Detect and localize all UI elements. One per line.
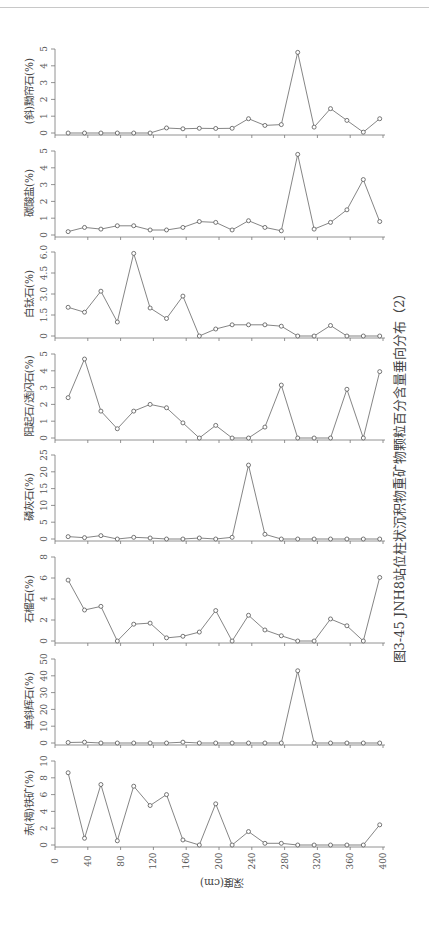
y-tick-label: 8 — [39, 775, 49, 781]
y-tick-label: 2 — [39, 199, 49, 205]
data-point — [378, 220, 382, 224]
data-point — [132, 224, 136, 228]
data-point — [197, 126, 201, 130]
data-point — [132, 741, 136, 745]
data-point — [66, 396, 70, 400]
y-tick-label: 0 — [39, 740, 49, 746]
data-point — [296, 152, 300, 156]
data-point — [99, 131, 103, 135]
data-point — [165, 793, 169, 797]
data-point — [115, 639, 119, 643]
data-point — [115, 839, 119, 843]
data-point — [132, 784, 136, 788]
data-point — [230, 843, 234, 847]
data-point — [378, 117, 382, 121]
data-point — [181, 225, 185, 229]
data-point — [230, 741, 234, 745]
y-axis-label: 阳起石/透闪石(%) — [23, 355, 35, 437]
data-point — [197, 220, 201, 224]
data-point — [165, 126, 169, 130]
y-tick-label: 40 — [39, 670, 49, 682]
data-point — [263, 323, 267, 327]
y-tick-label: 10 — [39, 755, 49, 767]
y-tick-label: 10 — [39, 499, 49, 511]
data-point — [296, 436, 300, 440]
data-point — [230, 228, 234, 232]
data-point — [115, 427, 119, 431]
data-point — [115, 131, 119, 135]
data-point — [312, 639, 316, 643]
series-line — [68, 671, 380, 743]
y-tick-label: 8 — [39, 554, 49, 560]
data-point — [181, 838, 185, 842]
data-point — [148, 621, 152, 625]
panel-7: 01020304050单斜辉石(%) — [23, 653, 385, 748]
data-point — [132, 131, 136, 135]
data-point — [247, 219, 251, 223]
data-point — [329, 107, 333, 111]
y-tick-label: 1 — [39, 215, 49, 221]
data-point — [181, 634, 185, 638]
data-point — [181, 294, 185, 298]
y-tick-label: 4 — [39, 808, 49, 814]
data-point — [378, 823, 382, 827]
y-tick-label: 2 — [39, 97, 49, 103]
x-tick-label: 160 — [181, 852, 191, 869]
x-tick-label: 0 — [50, 858, 60, 864]
data-point — [279, 741, 283, 745]
data-point — [361, 178, 365, 182]
data-point — [99, 227, 103, 231]
data-point — [214, 741, 218, 745]
data-point — [214, 423, 218, 427]
data-point — [345, 624, 349, 628]
data-point — [230, 323, 234, 327]
data-point — [181, 537, 185, 541]
data-point — [148, 306, 152, 310]
y-tick-label: 4 — [39, 368, 49, 374]
data-point — [99, 289, 103, 293]
data-point — [279, 841, 283, 845]
data-point — [115, 741, 119, 745]
data-point — [165, 741, 169, 745]
y-tick-label: 2 — [39, 617, 49, 623]
y-tick-label: 5 — [39, 351, 49, 357]
data-point — [312, 334, 316, 338]
data-point — [165, 317, 169, 321]
data-point — [296, 334, 300, 338]
data-point — [165, 228, 169, 232]
data-point — [329, 843, 333, 847]
x-axis-title: 深度(cm) — [200, 877, 244, 889]
x-tick-label: 280 — [280, 852, 290, 869]
data-point — [99, 783, 103, 787]
data-point — [263, 628, 267, 632]
data-point — [214, 537, 218, 541]
x-tick-label: 80 — [116, 855, 126, 867]
series-line — [68, 154, 380, 231]
y-axis-label: 白钛石(%) — [23, 270, 35, 318]
data-point — [230, 639, 234, 643]
data-point — [148, 131, 152, 135]
y-tick-label: 0 — [39, 435, 49, 441]
data-point — [197, 436, 201, 440]
y-tick-label: 2 — [39, 825, 49, 831]
data-point — [279, 634, 283, 638]
series-line — [68, 465, 380, 539]
data-point — [165, 537, 169, 541]
data-point — [148, 804, 152, 808]
data-point — [66, 578, 70, 582]
y-tick-label: 10 — [39, 720, 49, 732]
y-tick-label: 0 — [39, 638, 49, 644]
y-tick-label: 0 — [39, 536, 49, 542]
y-tick-label: 6 — [39, 575, 49, 581]
y-tick-label: 20 — [39, 703, 49, 715]
data-point — [115, 224, 119, 228]
data-point — [361, 537, 365, 541]
data-point — [361, 130, 365, 134]
y-tick-label: 25 — [39, 449, 49, 461]
x-tick-label: 360 — [345, 852, 355, 869]
data-point — [181, 740, 185, 744]
data-point — [329, 324, 333, 328]
data-point — [115, 537, 119, 541]
y-tick-label: 4.5 — [39, 266, 49, 281]
data-point — [214, 220, 218, 224]
